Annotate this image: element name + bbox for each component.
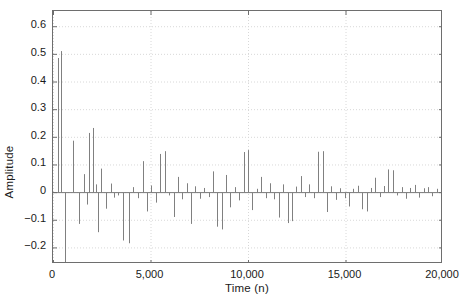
stem-series-svg	[53, 11, 442, 263]
stem-series	[59, 51, 442, 263]
y-axis-tick-label: −0.1	[4, 213, 46, 224]
y-axis-tick-label: 0.2	[4, 130, 46, 141]
x-axis-tick-label: 0	[49, 269, 55, 280]
y-axis-tick-label: 0.1	[4, 157, 46, 168]
gridlines	[53, 11, 442, 263]
x-axis-tick-label: 10,000	[230, 269, 264, 280]
y-axis-tick-label: 0.6	[4, 19, 46, 30]
figure-stem-plot: Amplitude Time (n) −0.2−0.100.10.20.30.4…	[0, 0, 467, 305]
y-axis-tick-label: 0	[4, 185, 46, 196]
x-axis-tick-label: 20,000	[425, 269, 459, 280]
y-axis-tick-label: 0.5	[4, 47, 46, 58]
x-axis-title: Time (n)	[52, 282, 442, 294]
y-axis-tick-label: −0.2	[4, 240, 46, 251]
y-axis-tick-label: 0.4	[4, 75, 46, 86]
plot-area	[52, 10, 442, 263]
x-axis-tick-label: 5,000	[136, 269, 164, 280]
x-axis-tick-label: 15,000	[328, 269, 362, 280]
y-axis-title: Amplitude	[0, 0, 18, 305]
y-axis-tick-label: 0.3	[4, 102, 46, 113]
